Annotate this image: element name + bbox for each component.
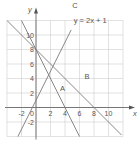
equation-annotation: y = 2x + 1 <box>74 16 107 25</box>
x-tick-label: -2 <box>18 110 24 117</box>
y-tick-label: 6 <box>30 61 34 68</box>
x-axis-label: x <box>132 109 137 118</box>
y-tick-label: -2 <box>28 119 34 126</box>
y-tick-label: 4 <box>30 75 34 82</box>
coordinate-graph: x y -2246810-2246810 0 ABC y = 2x + 1 <box>0 0 137 144</box>
line-label-c: C <box>72 1 78 10</box>
x-tick-label: 6 <box>78 110 82 117</box>
line-b <box>7 21 122 136</box>
x-tick-label: 8 <box>92 110 96 117</box>
y-axis-label: y <box>27 5 33 14</box>
x-tick-label: 10 <box>105 110 113 117</box>
line-label-b: B <box>85 72 90 81</box>
y-tick-label: 2 <box>30 90 34 97</box>
y-axis-arrow-icon <box>34 8 38 14</box>
x-axis: x <box>5 106 137 118</box>
line-label-a: A <box>60 84 65 93</box>
x-tick-label: 2 <box>49 110 53 117</box>
